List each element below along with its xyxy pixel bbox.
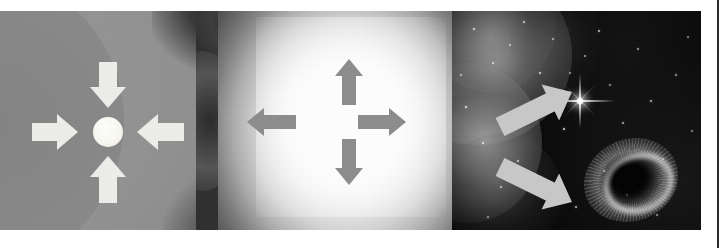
star-point — [487, 216, 489, 218]
figure-root — [0, 0, 725, 248]
star-point — [637, 48, 639, 50]
panel-compact-remnants — [452, 11, 701, 230]
star-point — [492, 62, 494, 64]
star-point — [569, 72, 571, 74]
panel-supernova-explosion — [196, 11, 496, 230]
star-point — [500, 186, 502, 188]
star-point — [687, 36, 689, 38]
star-point — [460, 74, 462, 76]
page-right-rule — [717, 0, 719, 248]
star-point — [584, 55, 586, 57]
collapsing-core — [93, 117, 123, 147]
star-point — [509, 44, 511, 46]
star-point — [552, 38, 554, 40]
illustration-plate — [0, 11, 701, 230]
star-point — [691, 130, 693, 132]
star-point — [609, 84, 611, 86]
